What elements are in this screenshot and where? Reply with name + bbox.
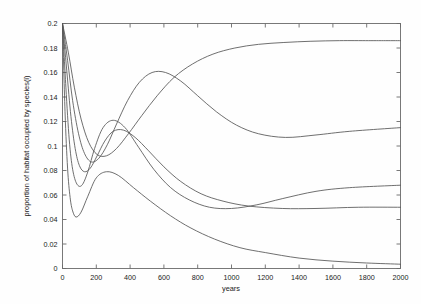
- x-axis-label: years: [222, 284, 240, 293]
- y-axis-label: proportion of habitat occupied by specie…: [22, 76, 31, 217]
- series-line: [63, 24, 401, 209]
- series-line: [63, 24, 401, 209]
- y-tick-label: 0.2: [48, 19, 58, 28]
- y-tick-label: 0.12: [44, 117, 58, 126]
- series-line: [63, 24, 401, 157]
- data-curves: [63, 24, 401, 265]
- x-tick-labels: 0200400600800100012001400160018002000: [61, 273, 409, 282]
- y-tick-label: 0.14: [44, 93, 58, 102]
- x-tick-label: 1000: [224, 273, 240, 282]
- y-tick-label: 0: [54, 264, 58, 273]
- y-tick-labels: 00.020.040.060.080.10.120.140.160.180.2: [44, 19, 58, 273]
- y-tick-label: 0.18: [44, 44, 58, 53]
- series-line: [63, 24, 401, 163]
- y-tick-label: 0.06: [44, 191, 58, 200]
- x-tick-label: 1800: [359, 273, 375, 282]
- axes-frame: [63, 24, 401, 269]
- x-tick-label: 1600: [325, 273, 341, 282]
- figure-container: 0200400600800100012001400160018002000 00…: [0, 0, 421, 304]
- y-tick-label: 0.1: [48, 142, 58, 151]
- line-chart: 0200400600800100012001400160018002000 00…: [0, 0, 421, 304]
- x-tick-label: 0: [61, 273, 65, 282]
- y-tick-label: 0.04: [44, 215, 58, 224]
- series-line: [63, 24, 401, 265]
- x-tick-label: 2000: [393, 273, 409, 282]
- x-tick-label: 200: [90, 273, 102, 282]
- x-tick-label: 1400: [291, 273, 307, 282]
- x-tick-label: 400: [124, 273, 136, 282]
- y-tick-label: 0.08: [44, 166, 58, 175]
- x-tick-label: 800: [192, 273, 204, 282]
- y-tick-label: 0.16: [44, 68, 58, 77]
- y-tick-label: 0.02: [44, 240, 58, 249]
- x-tick-label: 1200: [257, 273, 273, 282]
- x-tick-label: 600: [158, 273, 170, 282]
- axis-ticks: [63, 24, 401, 269]
